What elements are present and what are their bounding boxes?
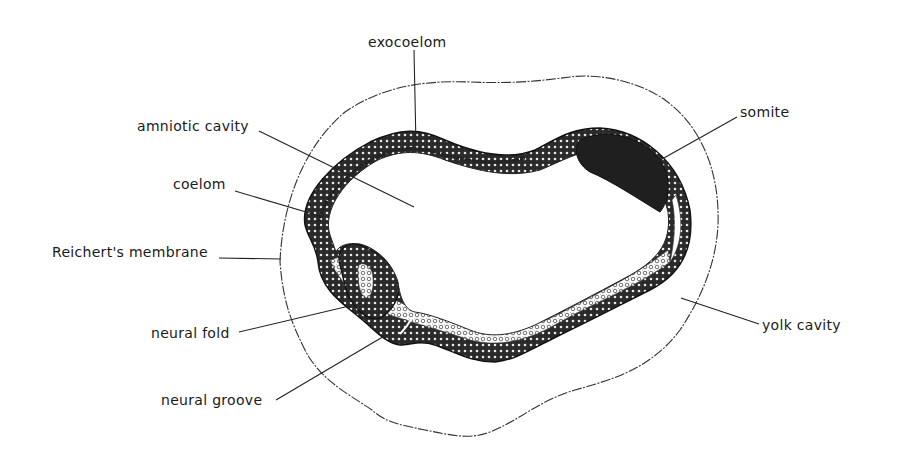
label-somite: somite — [740, 105, 789, 119]
leader-line-reicherts-membrane — [219, 258, 281, 259]
leader-line-neural-groove — [276, 335, 386, 400]
diagram-canvas — [0, 0, 903, 470]
leader-line-yolk-cavity — [681, 298, 759, 324]
label-neural-fold: neural fold — [151, 326, 230, 340]
embryo-section-diagram: exocoelom amniotic cavity coelom Reicher… — [0, 0, 903, 470]
label-coelom: coelom — [173, 177, 226, 191]
label-amniotic-cavity: amniotic cavity — [137, 119, 249, 133]
leader-line-neural-fold — [239, 303, 362, 332]
label-reicherts-membrane: Reichert's membrane — [52, 245, 208, 259]
label-neural-groove: neural groove — [161, 393, 262, 407]
label-exocoelom: exocoelom — [368, 35, 446, 49]
label-yolk-cavity: yolk cavity — [762, 318, 841, 332]
leader-line-somite — [655, 117, 737, 163]
